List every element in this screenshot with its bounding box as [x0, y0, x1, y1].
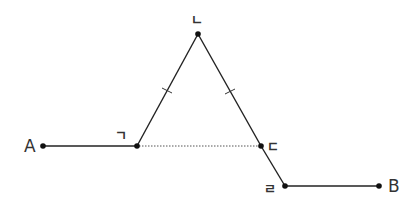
- label-A: A: [24, 136, 36, 156]
- point-d: [258, 143, 264, 149]
- point-A: [40, 143, 46, 149]
- label-d: ㄷ: [267, 139, 279, 154]
- label-n: ㄴ: [191, 12, 203, 27]
- point-B: [376, 183, 382, 189]
- segment-n-d: [198, 34, 261, 146]
- geometry-diagram: A ㄱ ㄴ ㄷ ㄹ B: [0, 0, 420, 212]
- point-r: [282, 183, 288, 189]
- point-n: [195, 31, 201, 37]
- label-r: ㄹ: [264, 181, 276, 196]
- label-g: ㄱ: [115, 128, 127, 143]
- label-B: B: [388, 176, 400, 196]
- point-g: [134, 143, 140, 149]
- segment-g-n: [137, 34, 198, 146]
